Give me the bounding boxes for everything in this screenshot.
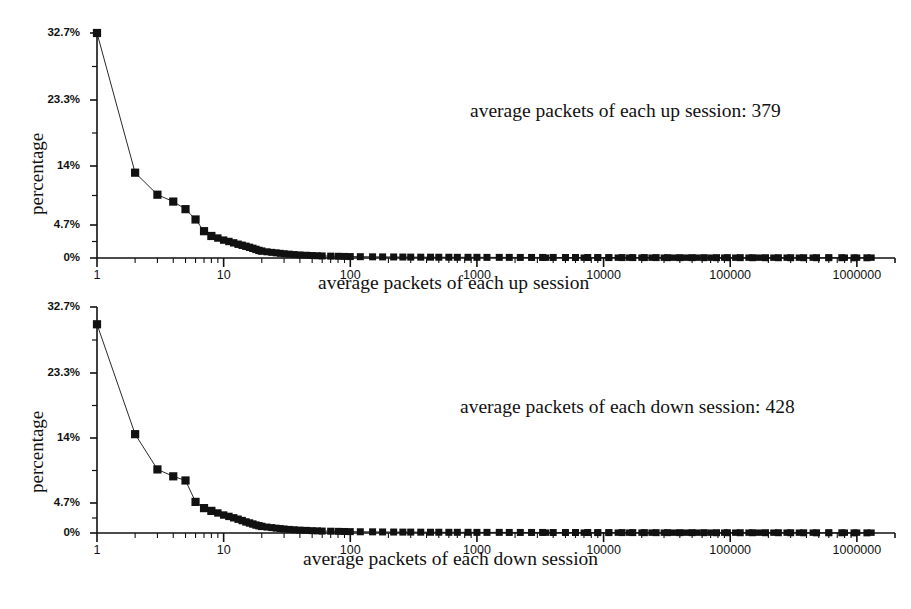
data-point-marker: [379, 253, 386, 260]
data-point-marker: [841, 529, 848, 535]
data-point-marker: [707, 254, 714, 260]
data-point-marker: [783, 529, 790, 535]
data-point-marker: [700, 254, 707, 261]
data-point-marker: [825, 254, 832, 260]
data-point-marker: [496, 254, 503, 261]
data-point-marker: [626, 254, 633, 260]
data-point-marker: [713, 529, 720, 536]
data-point-marker: [327, 253, 334, 260]
data-point-marker: [296, 251, 303, 258]
data-point-marker: [605, 529, 612, 535]
data-point-marker: [707, 529, 714, 535]
data-point-marker: [483, 254, 490, 261]
data-point-marker: [506, 529, 513, 536]
data-point-marker: [648, 254, 655, 260]
data-point-marker: [825, 529, 832, 535]
data-point-marker: [454, 254, 461, 261]
data-point-marker: [661, 529, 668, 535]
data-point-marker: [399, 529, 406, 536]
y-tick-label: 4.7%: [20, 218, 80, 230]
data-point-marker: [445, 254, 452, 261]
data-point-marker: [648, 529, 655, 535]
data-point-marker: [721, 254, 728, 260]
data-point-marker: [853, 254, 860, 260]
data-point-marker: [335, 528, 342, 535]
data-point-marker: [517, 529, 524, 536]
data-point-marker: [347, 253, 354, 260]
data-point-marker: [770, 529, 777, 535]
x-tick-label: 100000: [685, 543, 775, 557]
plot-area-up: [0, 0, 911, 300]
figure-two-panel-session-packets: percentage average packets of each up se…: [0, 0, 911, 609]
data-point-marker: [169, 197, 177, 205]
data-point-marker: [347, 528, 354, 535]
data-point-marker: [528, 254, 535, 261]
data-point-marker: [93, 320, 101, 328]
data-point-marker: [435, 254, 442, 261]
data-point-marker: [369, 253, 376, 260]
data-point-marker: [721, 529, 728, 535]
data-point-marker: [853, 529, 860, 535]
y-tick-label: 14%: [20, 431, 80, 443]
data-point-marker: [200, 227, 208, 235]
x-tick-label: 10: [179, 543, 269, 557]
data-point-marker: [661, 254, 668, 260]
data-point-marker: [399, 254, 406, 261]
data-point-marker: [868, 254, 875, 260]
data-point-marker: [407, 529, 414, 536]
data-point-marker: [615, 254, 622, 260]
data-point-marker: [638, 254, 645, 260]
data-point-marker: [181, 476, 189, 484]
data-point-marker: [357, 528, 364, 535]
data-point-marker: [732, 254, 739, 260]
data-point-marker: [357, 253, 364, 260]
x-tick-label: 1: [52, 543, 142, 557]
data-point-marker: [683, 529, 690, 535]
data-point-marker: [327, 528, 334, 535]
x-tick-label: 100000: [685, 268, 775, 282]
data-point-marker: [572, 529, 579, 535]
data-point-marker: [683, 254, 690, 260]
data-point-marker: [756, 529, 763, 535]
data-point-marker: [605, 254, 612, 260]
data-point-marker: [506, 254, 513, 261]
data-point-marker: [483, 529, 490, 536]
data-line: [97, 324, 867, 533]
data-point-marker: [713, 254, 720, 261]
data-point-marker: [868, 529, 875, 535]
x-tick-label: 1000: [432, 543, 522, 557]
data-point-marker: [810, 529, 817, 535]
y-tick-label: 0%: [20, 251, 80, 263]
data-point-marker: [671, 254, 678, 260]
data-point-marker: [496, 529, 503, 536]
data-point-marker: [465, 254, 472, 261]
data-point-marker: [417, 254, 424, 261]
data-point-marker: [770, 254, 777, 260]
data-point-marker: [181, 205, 189, 213]
panel-up-session: percentage average packets of each up se…: [0, 0, 911, 300]
data-point-marker: [335, 253, 342, 260]
data-point-marker: [841, 254, 848, 260]
data-point-marker: [473, 529, 480, 536]
data-point-marker: [615, 529, 622, 535]
data-point-marker: [435, 529, 442, 536]
x-tick-label: 10000: [559, 268, 649, 282]
data-point-marker: [594, 529, 601, 535]
y-tick-label: 14%: [20, 159, 80, 171]
data-line: [97, 33, 867, 258]
data-point-marker: [465, 529, 472, 536]
x-tick-label: 100: [305, 268, 395, 282]
data-point-marker: [756, 254, 763, 260]
y-tick-label: 32.7%: [20, 300, 80, 312]
y-tick-label: 0%: [20, 526, 80, 538]
y-axis-title-up: percentage: [26, 133, 48, 215]
data-point-marker: [810, 254, 817, 260]
data-point-marker: [454, 529, 461, 536]
data-point-marker: [572, 254, 579, 260]
data-point-marker: [191, 215, 199, 223]
data-point-marker: [762, 254, 769, 261]
data-point-marker: [417, 529, 424, 536]
data-point-marker: [550, 529, 557, 536]
data-point-marker: [796, 254, 803, 260]
x-tick-label: 10000: [559, 543, 649, 557]
